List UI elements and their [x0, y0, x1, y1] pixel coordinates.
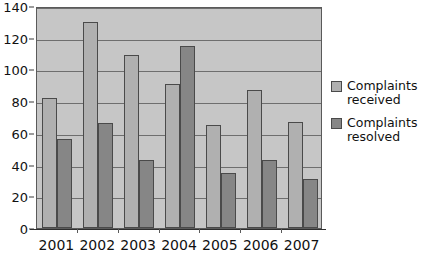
y-axis-tick-mark	[29, 165, 34, 166]
bar-group-2005	[206, 8, 236, 228]
x-axis-tick-label-2007: 2007	[284, 236, 320, 254]
x-axis-tick-label-2004: 2004	[161, 236, 197, 254]
x-axis-tick-mark	[281, 229, 282, 233]
y-axis-tick-label: 140	[3, 1, 28, 14]
legend-item-resolved[interactable]: Complaints resolved	[331, 116, 423, 144]
bar-2001-received	[42, 98, 57, 228]
legend-resolved-swatch-icon	[331, 118, 342, 129]
bar-2002-received	[83, 22, 98, 228]
y-axis-tick-mark	[29, 133, 34, 134]
bar-2004-resolved	[180, 46, 195, 228]
y-axis-tick-mark	[29, 7, 34, 8]
bar-2007-received	[288, 122, 303, 228]
x-axis-tick-label-2006: 2006	[243, 236, 279, 254]
x-axis-tick-mark	[77, 229, 78, 233]
x-axis-tick-label-2001: 2001	[39, 236, 75, 254]
legend-label: Complaints resolved	[347, 116, 421, 144]
y-axis-tick-label: 100	[3, 64, 28, 77]
bar-2007-resolved	[303, 179, 318, 228]
bar-group-2006	[247, 8, 277, 228]
x-axis-tick-label-2002: 2002	[79, 236, 115, 254]
legend-label: Complaints received	[347, 79, 421, 107]
bar-2005-received	[206, 125, 221, 228]
bar-group-2002	[83, 8, 113, 228]
bars-layer	[37, 8, 321, 228]
bar-2005-resolved	[221, 173, 236, 229]
x-axis-tick-mark	[159, 229, 160, 233]
y-axis-tick-mark	[29, 102, 34, 103]
legend-item-received[interactable]: Complaints received	[331, 79, 423, 107]
x-axis-tick-label-2005: 2005	[202, 236, 238, 254]
legend-received-swatch-icon	[331, 81, 342, 92]
y-axis-tick-mark	[29, 197, 34, 198]
y-axis-tick-label: 20	[11, 191, 28, 204]
x-axis-tick-mark	[199, 229, 200, 233]
x-axis: 2001200220032004200520062007	[36, 236, 322, 260]
bar-2006-received	[247, 90, 262, 228]
x-axis-tick-label-2003: 2003	[120, 236, 156, 254]
legend: Complaints receivedComplaints resolved	[331, 79, 423, 153]
y-axis-tick-mark	[29, 38, 34, 39]
bar-2003-received	[124, 55, 139, 228]
bar-2002-resolved	[98, 123, 113, 228]
bar-group-2004	[165, 8, 195, 228]
bar-group-2003	[124, 8, 154, 228]
bar-chart: 020406080100120140 200120022003200420052…	[0, 0, 425, 266]
bar-2003-resolved	[139, 160, 154, 228]
bar-2004-received	[165, 84, 180, 228]
bar-group-2001	[42, 8, 72, 228]
x-axis-tick-mark	[118, 229, 119, 233]
bar-2001-resolved	[57, 139, 72, 228]
y-axis-tick-label: 40	[11, 159, 28, 172]
y-axis: 020406080100120140	[0, 0, 34, 236]
bar-2006-resolved	[262, 160, 277, 228]
plot-area	[36, 7, 322, 229]
y-axis-tick-label: 120	[3, 32, 28, 45]
y-axis-tick-label: 80	[11, 96, 28, 109]
x-axis-tick-mark	[240, 229, 241, 233]
y-axis-tick-mark	[29, 70, 34, 71]
y-axis-tick-label: 0	[20, 223, 28, 236]
bar-group-2007	[288, 8, 318, 228]
y-axis-tick-label: 60	[11, 127, 28, 140]
